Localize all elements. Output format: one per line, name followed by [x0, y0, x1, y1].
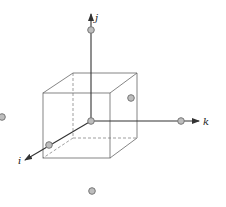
bottom-atom: [89, 188, 96, 195]
i-axis-atom: [46, 142, 53, 149]
k-axis-atom: [178, 118, 185, 125]
axes: [25, 14, 199, 160]
atoms: [0, 27, 184, 195]
left-atom: [0, 114, 5, 121]
i-axis: [25, 121, 91, 160]
cube-edges: [43, 73, 137, 158]
face-atom: [128, 95, 135, 102]
cube-hidden-edges: [43, 73, 137, 158]
origin-atom: [88, 118, 95, 125]
j-axis-label: j: [93, 12, 98, 23]
lattice-diagram: j k i: [0, 0, 226, 207]
i-axis-label: i: [18, 155, 21, 166]
k-axis-label: k: [203, 116, 209, 127]
j-axis-atom: [88, 27, 95, 34]
